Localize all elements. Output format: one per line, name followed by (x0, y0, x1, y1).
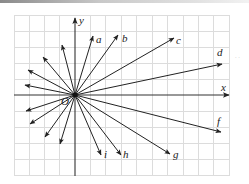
vector-g (75, 95, 170, 154)
y-axis-label: y (78, 14, 84, 26)
vector-i (75, 95, 101, 155)
label-i: i (104, 148, 107, 160)
origin-label: O (61, 95, 69, 107)
label-d: d (217, 46, 223, 58)
label-b: b (122, 32, 128, 44)
label-f: f (217, 115, 222, 127)
vector-diagram: y x O a b c d f g h i · · (0, 0, 249, 184)
label-c: c (176, 34, 181, 46)
vector-f (75, 95, 221, 132)
margin-dots: · · (235, 54, 240, 60)
vector-h (75, 95, 121, 155)
label-h: h (123, 148, 129, 160)
label-g: g (173, 148, 179, 160)
label-a: a (96, 33, 102, 45)
x-axis-label: x (220, 81, 226, 93)
origin-point (73, 93, 78, 98)
vector-unlabeled (28, 70, 75, 95)
